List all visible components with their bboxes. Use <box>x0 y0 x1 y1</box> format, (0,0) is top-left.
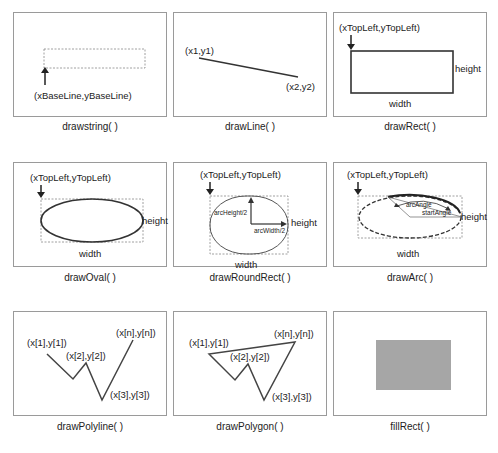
point-2-label: (x[2],y[2]) <box>230 351 270 362</box>
drawline-caption: drawLine( ) <box>173 121 327 132</box>
width-label: width <box>388 98 411 109</box>
drawrect-panel: (xTopLeft,yTopLeft) height width <box>333 12 487 117</box>
arc-angle-label: arcAngle <box>406 201 432 209</box>
drawoval-diagram: (xTopLeft,yTopLeft) height width <box>14 163 168 268</box>
fillrect-panel <box>333 311 487 416</box>
round-rect-shape <box>210 196 288 254</box>
arrow-down-icon <box>354 189 362 195</box>
start-angle-label: startAngle <box>422 209 452 217</box>
drawrect-caption: drawRect( ) <box>333 121 487 132</box>
drawoval-caption: drawOval( ) <box>13 272 167 283</box>
height-label: height <box>291 217 317 228</box>
point-3-label: (x[3],y[3]) <box>110 389 150 400</box>
height-label: height <box>142 215 168 226</box>
drawarc-panel: (xTopLeft,yTopLeft) arcAngle startAngle … <box>333 162 487 267</box>
rectangle-shape <box>351 51 453 93</box>
origin-label: (xTopLeft,yTopLeft) <box>30 172 111 183</box>
drawpolyline-diagram: (x[1],y[1]) (x[2],y[2]) (x[3],y[3]) (x[n… <box>14 312 168 417</box>
string-bounds-box <box>44 49 145 68</box>
drawpolygon-caption: drawPolygon( ) <box>173 421 327 432</box>
point-n-label: (x[n],y[n]) <box>116 327 156 338</box>
bounding-box <box>210 196 288 254</box>
drawpolyline-panel: (x[1],y[1]) (x[2],y[2]) (x[3],y[3]) (x[n… <box>13 311 167 416</box>
drawrect-diagram: (xTopLeft,yTopLeft) height width <box>334 13 488 118</box>
arrow-down-icon <box>37 192 45 198</box>
fillrect-diagram <box>334 312 488 417</box>
oval-shape <box>41 199 143 242</box>
point-3-label: (x[3],y[3]) <box>272 391 312 402</box>
point-2-label: (x[2],y[2]) <box>66 350 106 361</box>
line-end-label: (x2,y2) <box>286 81 315 92</box>
height-label: height <box>455 63 481 74</box>
origin-label: (xTopLeft,yTopLeft) <box>200 169 281 180</box>
baseline-point-label: (xBaseLine,yBaseLine) <box>34 90 132 101</box>
arc-height-label: arcHeight/2 <box>214 209 248 217</box>
filled-rectangle-shape <box>376 340 451 390</box>
drawline-panel: (x1,y1) (x2,y2) <box>173 12 327 117</box>
arrow-down-icon <box>206 189 214 195</box>
line-segment <box>199 58 298 77</box>
drawpolygon-panel: (x[1],y[1]) (x[2],y[2]) (x[3],y[3]) (x[n… <box>173 311 327 416</box>
drawroundrect-diagram: (xTopLeft,yTopLeft) arcHeight/2 arcWidth… <box>174 163 328 268</box>
drawoval-panel: (xTopLeft,yTopLeft) height width <box>13 162 167 267</box>
drawpolygon-diagram: (x[1],y[1]) (x[2],y[2]) (x[3],y[3]) (x[n… <box>174 312 328 417</box>
width-label: width <box>234 259 257 270</box>
arc-width-label: arcWidth/2 <box>254 227 285 234</box>
point-1-label: (x[1],y[1]) <box>189 337 229 348</box>
height-label: height <box>461 211 487 222</box>
drawroundrect-caption: drawRoundRect( ) <box>173 272 327 283</box>
width-label: width <box>78 248 101 259</box>
origin-label: (xTopLeft,yTopLeft) <box>347 169 428 180</box>
width-label: width <box>396 248 419 259</box>
drawroundrect-panel: (xTopLeft,yTopLeft) arcHeight/2 arcWidth… <box>173 162 327 267</box>
drawline-diagram: (x1,y1) (x2,y2) <box>174 13 328 118</box>
fillrect-caption: fillRect( ) <box>333 421 487 432</box>
origin-label: (xTopLeft,yTopLeft) <box>339 22 420 33</box>
drawarc-caption: drawArc( ) <box>333 272 487 283</box>
arrow-down-icon <box>347 44 355 50</box>
drawarc-diagram: (xTopLeft,yTopLeft) arcAngle startAngle … <box>334 163 488 268</box>
point-1-label: (x[1],y[1]) <box>27 337 67 348</box>
point-n-label: (x[n],y[n]) <box>274 328 314 339</box>
drawstring-diagram: (xBaseLine,yBaseLine) <box>14 13 168 118</box>
drawstring-caption: drawstring( ) <box>13 121 167 132</box>
drawpolyline-caption: drawPolyline( ) <box>13 421 167 432</box>
drawstring-panel: (xBaseLine,yBaseLine) <box>13 12 167 117</box>
line-start-label: (x1,y1) <box>185 45 214 56</box>
arrow-up-icon <box>248 197 254 203</box>
